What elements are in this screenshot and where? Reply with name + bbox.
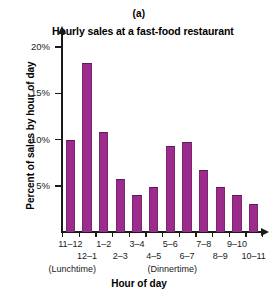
bar [132, 195, 142, 232]
bar [182, 142, 192, 232]
x-axis-tick-label: 5–6 [163, 239, 178, 249]
bar [232, 195, 242, 232]
chart-annotation: (Dinnertime) [148, 264, 198, 274]
x-axis-tick-label: 7–8 [196, 239, 211, 249]
x-axis-tick-label: 6–7 [179, 251, 194, 261]
y-axis-tick-label: 20% [10, 41, 50, 52]
x-axis-tick [229, 232, 230, 237]
x-axis-tick [179, 232, 180, 237]
x-axis-tick-label: 1–2 [96, 239, 111, 249]
y-axis-tick-label: 5% [10, 180, 50, 191]
panel-label: (a) [0, 8, 278, 19]
bar [166, 146, 176, 232]
bar [216, 187, 226, 232]
x-axis-tick-label: 11–12 [58, 239, 82, 249]
y-axis-arrow-icon [58, 26, 66, 34]
bar [149, 187, 159, 232]
x-axis-tick-label: 4–5 [146, 251, 161, 261]
x-axis-tick [262, 232, 263, 237]
chart-annotation: (Lunchtime) [49, 264, 97, 274]
x-axis-tick [245, 232, 246, 237]
y-axis-tick [55, 185, 62, 187]
x-axis-tick [79, 232, 80, 237]
x-axis-tick [162, 232, 163, 237]
x-axis-tick-label: 9–10 [227, 239, 247, 249]
y-axis-tick [55, 46, 62, 48]
x-axis-tick [195, 232, 196, 237]
y-axis-tick-label: 10% [10, 134, 50, 145]
x-axis-tick [145, 232, 146, 237]
x-axis-tick-label: 8–9 [213, 251, 228, 261]
bar [82, 63, 92, 232]
x-axis-tick-label: 3–4 [129, 239, 144, 249]
bar [66, 140, 76, 233]
y-axis-tick [55, 139, 62, 141]
bar [116, 179, 126, 232]
chart-title: Hourly sales at a fast-food restaurant [52, 25, 278, 37]
y-axis-tick-label: 15% [10, 87, 50, 98]
y-axis-tick [55, 93, 62, 95]
x-axis-label: Hour of day [0, 278, 278, 289]
x-axis-tick [212, 232, 213, 237]
bar [249, 204, 259, 232]
chart-figure: (a) Hourly sales at a fast-food restaura… [0, 0, 278, 304]
x-axis-tick [95, 232, 96, 237]
bars-layer [62, 40, 262, 232]
x-axis-tick-label: 2–3 [113, 251, 128, 261]
x-axis-tick-label: 10–11 [241, 251, 265, 261]
x-axis-tick [129, 232, 130, 237]
x-axis-tick-label: 12–1 [77, 251, 97, 261]
x-axis-tick [62, 232, 63, 237]
bar [199, 170, 209, 232]
x-axis-tick [112, 232, 113, 237]
bar [99, 132, 109, 232]
